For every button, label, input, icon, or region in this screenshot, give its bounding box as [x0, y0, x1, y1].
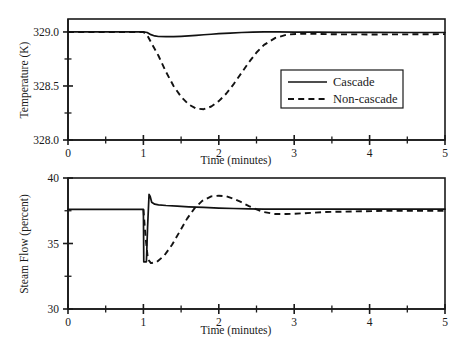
ytick-label: 35 — [48, 238, 60, 250]
temperature-ylabel: Temperature (K) — [18, 41, 31, 118]
xtick-label: 1 — [141, 147, 147, 159]
steam-flow-xlabel: Time (minutes) — [201, 324, 272, 337]
dual-panel-line-chart: 328.0328.5329.0 012345 Temperature (K) T… — [0, 0, 463, 345]
steam-flow-panel: 303540 012345 Steam Flow (percent) Time … — [18, 172, 448, 337]
figure-container: 328.0328.5329.0 012345 Temperature (K) T… — [0, 0, 463, 345]
ytick-label: 328.5 — [33, 80, 59, 92]
steam-flow-plot-frame — [68, 178, 445, 309]
xtick-label: 5 — [442, 147, 448, 159]
ytick-label: 30 — [48, 303, 60, 315]
temperature-ytick-labels: 328.0328.5329.0 — [33, 26, 59, 146]
xtick-label: 1 — [141, 316, 147, 328]
xtick-label: 0 — [65, 147, 71, 159]
legend-label-non-cascade: Non-cascade — [333, 92, 398, 106]
legend-label-cascade: Cascade — [333, 75, 375, 89]
xtick-label: 0 — [65, 316, 71, 328]
steam-flow-axis-ticks — [63, 178, 445, 314]
ytick-label: 328.0 — [33, 134, 59, 146]
series-non-cascade — [143, 196, 445, 263]
ytick-label: 329.0 — [33, 26, 59, 38]
steam-flow-series-group — [68, 194, 445, 263]
ytick-label: 40 — [48, 172, 60, 184]
xtick-label: 4 — [367, 147, 373, 159]
series-cascade — [68, 194, 445, 261]
xtick-label: 3 — [291, 147, 297, 159]
legend: Cascade Non-cascade — [281, 70, 403, 108]
steam-flow-ytick-labels: 303540 — [48, 172, 60, 315]
xtick-label: 4 — [367, 316, 373, 328]
steam-flow-ylabel: Steam Flow (percent) — [18, 194, 31, 294]
xtick-label: 3 — [291, 316, 297, 328]
temperature-xlabel: Time (minutes) — [201, 154, 272, 167]
xtick-label: 5 — [442, 316, 448, 328]
